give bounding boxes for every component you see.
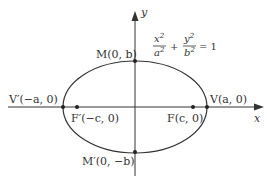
y-axis-label: y (140, 6, 148, 19)
eq-equals-one: = 1 (199, 41, 217, 52)
minor-bottom-label: M′(0, −b) (82, 155, 135, 168)
x-axis-arrow-icon (254, 104, 264, 111)
vertex-right-point (205, 105, 209, 109)
eq-term2-denominator: b2 (184, 46, 195, 58)
minor-bottom-point (133, 150, 137, 154)
eq-term1-numerator: x2 (154, 32, 165, 44)
ellipse-diagram: y x M(0, b) V′(−a, 0) F′(−c, 0) F(c, 0) … (0, 0, 267, 183)
focus-right-point (191, 105, 195, 109)
focus-left-label: F′(−c, 0) (71, 112, 119, 125)
focus-right-label: F(c, 0) (167, 112, 203, 125)
eq-plus: + (170, 41, 178, 52)
eq-term2-numerator: y2 (183, 32, 195, 44)
y-axis-arrow-icon (132, 11, 139, 21)
focus-left-point (75, 105, 79, 109)
vertex-left-label: V′(−a, 0) (8, 93, 58, 106)
vertex-right-label: V(a, 0) (209, 93, 247, 106)
ellipse-equation: x2 a2 + y2 b2 = 1 (153, 32, 217, 58)
x-axis-label: x (254, 112, 261, 125)
minor-top-label: M(0, b) (96, 48, 137, 61)
vertex-left-point (61, 105, 65, 109)
eq-term1-denominator: a2 (154, 46, 165, 58)
